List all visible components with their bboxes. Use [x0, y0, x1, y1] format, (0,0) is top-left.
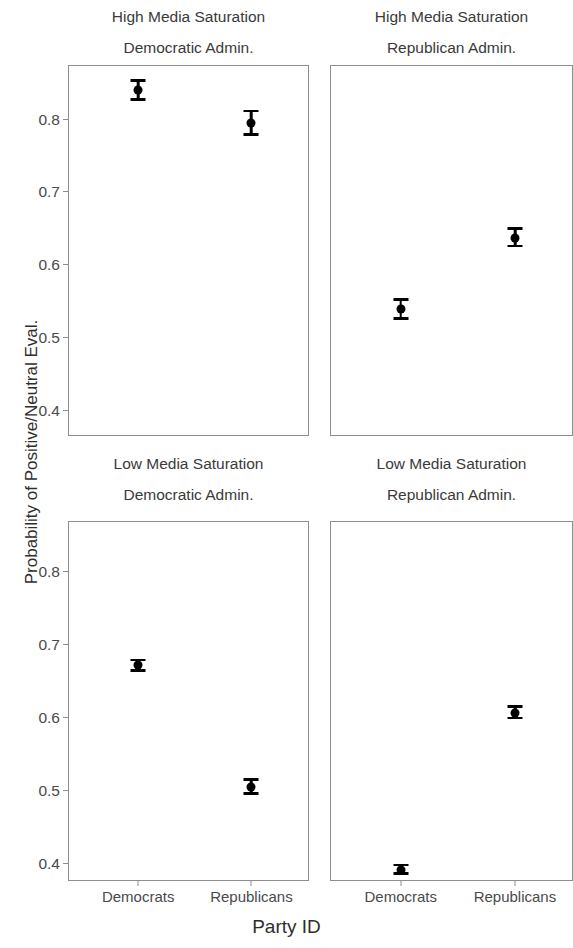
- point-marker: [396, 304, 405, 313]
- plot-area: [331, 66, 572, 435]
- y-tick-label: 0.6: [38, 256, 60, 274]
- y-tick-mark: [63, 717, 69, 718]
- data-point: [243, 110, 259, 136]
- data-point: [507, 227, 523, 247]
- data-point: [393, 298, 409, 320]
- panel-strip-label-low-republican: Low Media Saturation Republican Admin.: [330, 455, 573, 504]
- y-tick-mark: [63, 790, 69, 791]
- point-marker: [396, 865, 405, 874]
- panel-strip-label-low-democratic: Low Media Saturation Democratic Admin.: [68, 455, 309, 504]
- panel-high-republican: [330, 65, 573, 436]
- y-tick-mark: [63, 644, 69, 645]
- error-bar-cap-upper: [507, 227, 522, 230]
- x-tick-mark: [400, 880, 401, 886]
- error-bar-cap-lower: [244, 133, 259, 136]
- y-tick-label: 0.6: [38, 709, 60, 727]
- x-tick-mark: [138, 880, 139, 886]
- data-point: [393, 864, 409, 875]
- panel-strip-label-high-democratic: High Media Saturation Democratic Admin.: [68, 8, 309, 57]
- strip-line-1: Low Media Saturation: [114, 455, 264, 472]
- error-bar-cap-lower: [507, 245, 522, 248]
- plot-area: DemocratsRepublicans: [331, 522, 572, 880]
- error-bar-cap-upper: [244, 110, 259, 113]
- y-tick-label: 0.5: [38, 782, 60, 800]
- y-tick-label: 0.7: [38, 183, 60, 201]
- point-marker: [134, 86, 143, 95]
- plot-area: 0.40.50.60.70.8DemocratsRepublicans: [69, 522, 308, 880]
- panel-low-republican: DemocratsRepublicans: [330, 521, 573, 881]
- point-marker: [134, 661, 143, 670]
- y-tick-label: 0.8: [38, 110, 60, 128]
- y-tick-mark: [63, 191, 69, 192]
- x-tick-label: Republicans: [474, 888, 557, 905]
- strip-line-2: Democratic Admin.: [68, 39, 309, 57]
- y-tick-label: 0.5: [38, 328, 60, 346]
- data-point: [243, 778, 259, 795]
- y-tick-label: 0.4: [38, 855, 60, 873]
- y-tick-label: 0.8: [38, 563, 60, 581]
- x-tick-label: Republicans: [210, 888, 293, 905]
- strip-line-1: High Media Saturation: [375, 8, 528, 25]
- error-bar-cap-upper: [131, 79, 146, 82]
- error-bar-cap-lower: [131, 98, 146, 101]
- error-bar-cap-upper: [393, 298, 408, 301]
- error-bar-cap-lower: [393, 317, 408, 320]
- faceted-scatter-figure: Probability of Positive/Neutral Eval. Pa…: [0, 0, 573, 948]
- x-axis-title: Party ID: [0, 916, 573, 938]
- y-tick-mark: [63, 410, 69, 411]
- panel-strip-label-high-republican: High Media Saturation Republican Admin.: [330, 8, 573, 57]
- panel-low-democratic: 0.40.50.60.70.8DemocratsRepublicans: [68, 521, 309, 881]
- strip-line-1: High Media Saturation: [112, 8, 265, 25]
- error-bar-cap-upper: [244, 778, 259, 781]
- y-tick-mark: [63, 337, 69, 338]
- x-tick-label: Democrats: [102, 888, 175, 905]
- y-tick-label: 0.7: [38, 636, 60, 654]
- x-tick-label: Democrats: [364, 888, 437, 905]
- point-marker: [510, 708, 519, 717]
- y-axis-title: Probability of Positive/Neutral Eval.: [22, 242, 42, 662]
- y-tick-label: 0.4: [38, 401, 60, 419]
- point-marker: [247, 118, 256, 127]
- strip-line-2: Republican Admin.: [330, 486, 573, 504]
- point-marker: [510, 233, 519, 242]
- strip-line-2: Democratic Admin.: [68, 486, 309, 504]
- error-bar-cap-lower: [244, 792, 259, 795]
- y-tick-mark: [63, 264, 69, 265]
- point-marker: [247, 783, 256, 792]
- y-tick-mark: [63, 119, 69, 120]
- data-point: [130, 659, 146, 672]
- panel-high-democratic: 0.40.50.60.70.8: [68, 65, 309, 436]
- strip-line-1: Low Media Saturation: [377, 455, 527, 472]
- x-tick-mark: [514, 880, 515, 886]
- x-tick-mark: [251, 880, 252, 886]
- y-tick-mark: [63, 571, 69, 572]
- data-point: [507, 705, 523, 719]
- plot-area: 0.40.50.60.70.8: [69, 66, 308, 435]
- strip-line-2: Republican Admin.: [330, 39, 573, 57]
- y-tick-mark: [63, 863, 69, 864]
- data-point: [130, 79, 146, 101]
